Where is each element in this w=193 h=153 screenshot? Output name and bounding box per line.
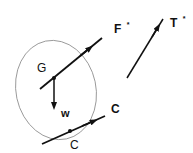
label-F-star: F * [114,21,130,36]
torque-T-star-vector [127,19,163,78]
rigid-body-outline [6,33,105,147]
label-C-point: C [70,138,79,152]
label-F-superscript: * [127,21,130,28]
label-G: G [37,61,46,75]
label-T: T [170,16,178,30]
label-F: F [114,22,121,36]
label-C-force: C [111,102,120,116]
label-T-star: T * [170,15,186,30]
label-T-superscript: * [183,15,186,22]
free-body-diagram: G w C C F * T * [0,0,193,153]
label-w: w [60,107,70,119]
point-C-dot [68,129,72,133]
